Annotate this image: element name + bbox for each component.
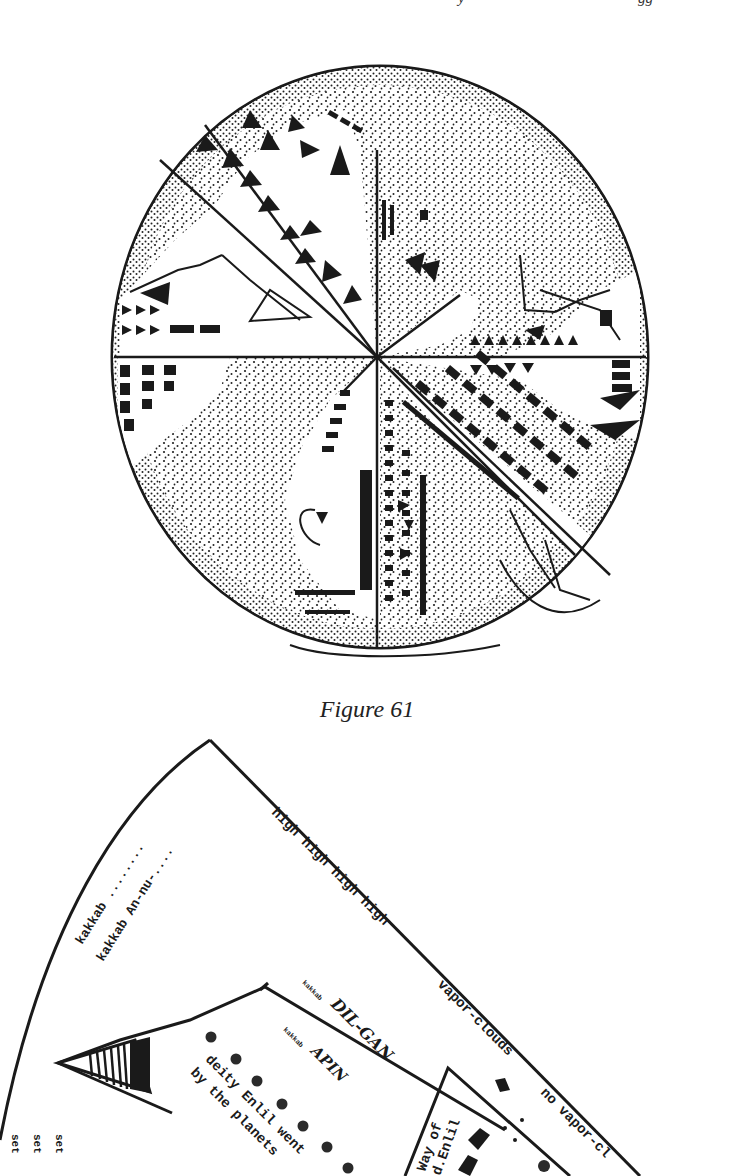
apin-prefix: kakkab (282, 1026, 305, 1049)
dilgan-prefix: kakkab (301, 979, 324, 1002)
high-label: high high high high (268, 805, 392, 929)
right-edge-line (210, 740, 640, 1176)
way-of-enlil-marks (458, 1078, 524, 1176)
way-of-label: Way of (414, 1121, 446, 1174)
figure-61-planisphere (0, 0, 734, 700)
no-vapor-clouds-label: no vapor-cl (537, 1085, 614, 1162)
outer-arc-line (0, 740, 210, 1140)
planet-dots (206, 1032, 551, 1174)
set-label-2: set (31, 1134, 43, 1154)
hatched-triangle (58, 1037, 172, 1113)
set-label-1: set (9, 1134, 21, 1154)
inner-border-line (58, 987, 505, 1130)
enlil-label: d.Enlil (429, 1117, 464, 1176)
sector-outline (0, 740, 640, 1176)
figure-61-caption: Figure 61 (0, 696, 734, 723)
book-page: y gg (0, 0, 734, 1176)
apin-label: APIN (306, 1041, 352, 1087)
kakkab-label-1: kakkab ........ (73, 840, 148, 947)
way-of-enlil-box (405, 1068, 570, 1176)
vapor-clouds-label: vapor-clouds (434, 977, 517, 1060)
kakkab-label-2: kakkab An-nu-.... (94, 844, 177, 964)
set-label-3: set (53, 1134, 65, 1154)
deity-enlil-line-1: deity Enlil went (202, 1052, 308, 1158)
deity-enlil-line-2: by the planets (187, 1065, 281, 1159)
dilgan-label: DIL-GAN (326, 994, 398, 1066)
figure-62-labels: kakkab ........ kakkab An-nu-.... high h… (9, 805, 614, 1176)
